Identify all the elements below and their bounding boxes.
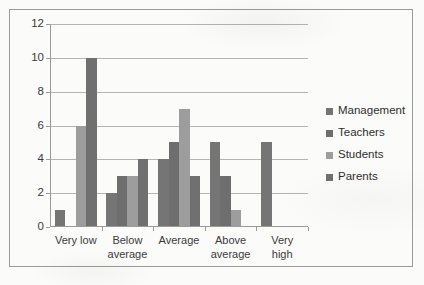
x-axis-category-label: Average bbox=[159, 234, 200, 248]
legend-swatch-icon bbox=[326, 130, 333, 137]
bar-group bbox=[55, 24, 97, 227]
bar bbox=[138, 159, 149, 227]
bar bbox=[117, 176, 128, 227]
legend-item: Teachers bbox=[326, 122, 421, 144]
chart-legend: ManagementTeachersStudentsParents bbox=[326, 100, 421, 188]
x-axis-category-label: Very low bbox=[55, 234, 97, 248]
bar bbox=[261, 142, 272, 227]
y-axis-tick-label: 8 bbox=[38, 86, 44, 98]
x-axis-category-label: Above average bbox=[211, 234, 251, 262]
bar bbox=[220, 176, 231, 227]
legend-label: Management bbox=[338, 105, 405, 117]
bar bbox=[55, 210, 66, 227]
legend-swatch-icon bbox=[326, 174, 333, 181]
bar bbox=[106, 193, 117, 227]
legend-label: Parents bbox=[338, 171, 378, 183]
bar bbox=[231, 210, 242, 227]
legend-label: Teachers bbox=[338, 127, 385, 139]
bar-group bbox=[261, 24, 303, 227]
bar bbox=[86, 58, 97, 227]
x-axis-tick-mark bbox=[205, 227, 206, 231]
y-axis-tick-label: 12 bbox=[31, 18, 44, 30]
scanned-page: 024681012 Very lowBelow averageAverageAb… bbox=[0, 0, 424, 285]
chart-frame: 024681012 Very lowBelow averageAverageAb… bbox=[9, 9, 413, 267]
bar bbox=[179, 109, 190, 227]
bar-group bbox=[106, 24, 148, 227]
x-axis-tick-mark bbox=[256, 227, 257, 231]
y-axis-tick-label: 10 bbox=[31, 52, 44, 64]
bar bbox=[127, 176, 138, 227]
bar-group bbox=[210, 24, 252, 227]
y-axis-tick-label: 2 bbox=[38, 187, 44, 199]
bar bbox=[210, 142, 221, 227]
x-axis-category-label: Very high bbox=[269, 234, 295, 262]
plot-area: 024681012 Very lowBelow averageAverageAb… bbox=[50, 24, 308, 227]
bar bbox=[76, 126, 87, 228]
y-axis-tick-label: 0 bbox=[38, 221, 44, 233]
bar bbox=[158, 159, 169, 227]
bar bbox=[169, 142, 180, 227]
legend-label: Students bbox=[338, 149, 383, 161]
legend-swatch-icon bbox=[326, 108, 333, 115]
bar bbox=[190, 176, 201, 227]
bar-group bbox=[158, 24, 200, 227]
bar-series-layer bbox=[50, 24, 308, 227]
x-axis-tick-mark bbox=[102, 227, 103, 231]
y-axis-tick-mark bbox=[46, 227, 50, 228]
legend-item: Parents bbox=[326, 166, 421, 188]
legend-swatch-icon bbox=[326, 152, 333, 159]
x-axis-category-label: Below average bbox=[108, 234, 148, 262]
x-axis-line bbox=[50, 226, 308, 227]
y-axis-tick-label: 4 bbox=[38, 154, 44, 166]
x-axis-tick-mark bbox=[308, 227, 309, 231]
x-axis-tick-mark bbox=[153, 227, 154, 231]
legend-item: Management bbox=[326, 100, 421, 122]
y-axis-tick-label: 6 bbox=[38, 120, 44, 132]
legend-item: Students bbox=[326, 144, 421, 166]
